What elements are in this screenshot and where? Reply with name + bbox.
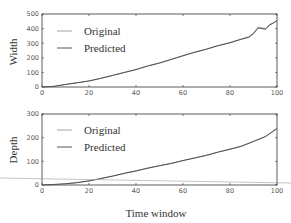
x-tick-label: 40 (132, 89, 140, 97)
legend-original-label: Original (84, 25, 121, 37)
chart-figure: 0204060801000100200300400500OriginalPred… (0, 0, 291, 223)
legend-predicted-label: Predicted (84, 141, 126, 153)
stray-line (0, 178, 291, 183)
x-tick-label: 20 (85, 187, 93, 195)
series-original-line (42, 128, 277, 185)
y-tick-label: 100 (27, 158, 39, 166)
plot-frame (42, 114, 277, 185)
plot-frame (42, 14, 277, 87)
y-tick-label: 0 (35, 181, 39, 189)
x-tick-label: 60 (179, 89, 187, 97)
series-original-line (42, 20, 277, 87)
width-plot: 0204060801000100200300400500OriginalPred… (27, 10, 284, 97)
x-tick-label: 100 (271, 89, 283, 97)
y-tick-label: 300 (27, 40, 39, 48)
series-predicted-line (42, 21, 277, 87)
y-tick-label: 500 (27, 10, 39, 18)
depth-axis-label: Depth (7, 136, 19, 163)
x-tick-label: 40 (132, 187, 140, 195)
legend-original-label: Original (84, 124, 121, 136)
x-tick-label: 60 (179, 187, 187, 195)
y-tick-label: 100 (27, 69, 39, 77)
series-predicted-line (42, 129, 277, 185)
y-tick-label: 200 (27, 54, 39, 62)
y-tick-label: 200 (27, 134, 39, 142)
x-tick-label: 0 (40, 187, 44, 195)
time-window-axis-label: Time window (125, 207, 186, 219)
y-tick-label: 400 (27, 25, 39, 33)
x-tick-label: 80 (226, 89, 234, 97)
y-tick-label: 300 (27, 110, 39, 118)
x-tick-label: 100 (271, 187, 283, 195)
x-tick-label: 80 (226, 187, 234, 195)
width-axis-label: Width (7, 38, 19, 66)
x-tick-label: 20 (85, 89, 93, 97)
x-tick-label: 0 (40, 89, 44, 97)
y-tick-label: 0 (35, 83, 39, 91)
legend-predicted-label: Predicted (84, 42, 126, 54)
